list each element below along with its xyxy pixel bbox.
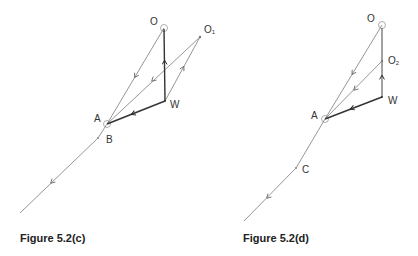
diagram-canvas [0,0,418,256]
label-w: W [170,99,179,110]
label-o: O [150,16,158,27]
label-b: B [106,134,113,145]
label-o: O [367,13,375,24]
figure-d [244,22,386,222]
label-a: A [94,113,101,124]
label-a: A [311,110,318,121]
figure-caption-c: Figure 5.2(c) [20,232,85,244]
label-c: C [302,164,309,175]
label-o2: O2 [388,55,399,66]
figure-c [20,25,201,214]
label-o1: O1 [204,24,215,35]
label-w: W [388,95,397,106]
figure-caption-d: Figure 5.2(d) [243,232,309,244]
